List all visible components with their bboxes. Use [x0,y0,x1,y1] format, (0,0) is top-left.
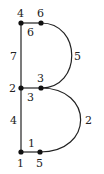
node-label-6: 6 [37,7,44,20]
edge-weight-3-5: 2 [85,114,92,127]
node-label-5: 5 [36,157,43,170]
node-6 [38,20,43,25]
node-label-1: 1 [17,157,24,170]
edge-weight-4-2: 7 [10,50,17,63]
edge-weight-4-6: 6 [27,26,34,39]
node-label-4: 4 [17,7,24,20]
node-label-3: 3 [37,72,44,85]
node-3 [38,85,43,90]
node-5 [37,149,42,154]
node-label-2: 2 [9,82,16,95]
edge-weight-6-3: 5 [74,50,81,63]
edge-6-3-arc [41,23,72,88]
edge-weight-1-5: 1 [28,137,35,150]
node-1 [18,149,23,154]
edge-weight-2-1: 4 [10,114,17,127]
node-2 [18,85,23,90]
node-4 [18,20,23,25]
graph-diagram: 4 6 2 3 1 5 6 7 5 3 4 2 1 [0,0,104,174]
edge-weight-2-3: 3 [27,91,34,104]
edge-3-5-arc [40,88,81,152]
